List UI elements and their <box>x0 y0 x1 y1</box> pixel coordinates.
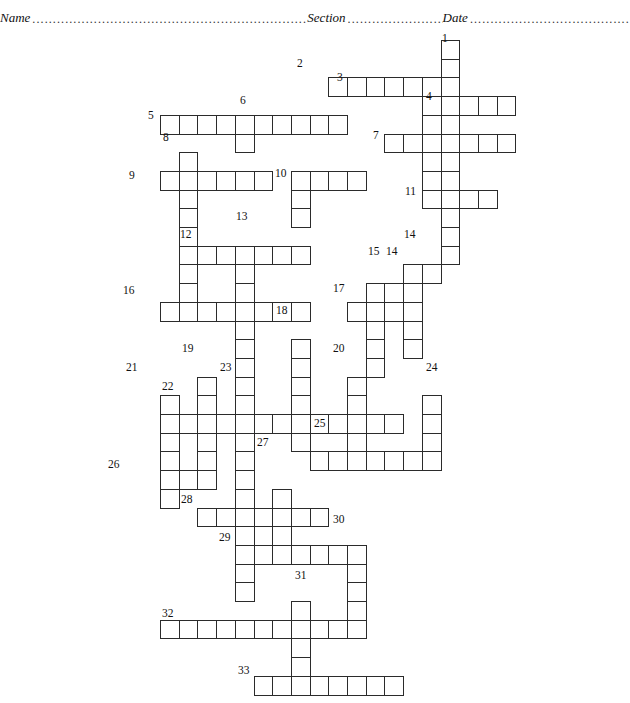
crossword-cell[interactable] <box>347 171 367 191</box>
crossword-cell[interactable] <box>216 414 236 434</box>
crossword-cell[interactable] <box>497 134 517 154</box>
crossword-cell[interactable] <box>291 414 311 434</box>
crossword-cell[interactable] <box>291 208 311 228</box>
crossword-cell[interactable] <box>235 264 255 284</box>
crossword-cell[interactable] <box>459 96 479 116</box>
crossword-cell[interactable] <box>197 451 217 471</box>
crossword-cell[interactable] <box>216 620 236 640</box>
crossword-cell[interactable] <box>235 489 255 509</box>
crossword-cell[interactable] <box>328 115 348 135</box>
crossword-cell[interactable] <box>347 582 367 602</box>
crossword-cell[interactable] <box>291 115 311 135</box>
crossword-cell[interactable] <box>422 395 442 415</box>
crossword-cell[interactable] <box>254 414 274 434</box>
crossword-cell[interactable] <box>291 545 311 565</box>
crossword-cell[interactable] <box>179 246 199 266</box>
name-dotted-line[interactable]: ........................................… <box>32 12 307 26</box>
crossword-cell[interactable] <box>235 526 255 546</box>
crossword-cell[interactable] <box>254 508 274 528</box>
crossword-cell[interactable] <box>422 171 442 191</box>
crossword-cell[interactable] <box>291 657 311 677</box>
crossword-cell[interactable] <box>272 414 292 434</box>
crossword-cell[interactable] <box>235 582 255 602</box>
crossword-cell[interactable] <box>291 358 311 378</box>
crossword-cell[interactable] <box>235 115 255 135</box>
crossword-cell[interactable] <box>272 489 292 509</box>
crossword-cell[interactable] <box>272 508 292 528</box>
crossword-cell[interactable] <box>272 115 292 135</box>
crossword-cell[interactable] <box>197 115 217 135</box>
crossword-cell[interactable] <box>197 395 217 415</box>
crossword-cell[interactable] <box>310 115 330 135</box>
crossword-cell[interactable] <box>403 321 423 341</box>
crossword-cell[interactable] <box>179 283 199 303</box>
crossword-cell[interactable] <box>422 433 442 453</box>
crossword-cell[interactable] <box>328 451 348 471</box>
crossword-cell[interactable] <box>291 676 311 696</box>
crossword-cell[interactable] <box>310 545 330 565</box>
crossword-cell[interactable] <box>179 208 199 228</box>
crossword-cell[interactable] <box>216 302 236 322</box>
crossword-cell[interactable] <box>235 321 255 341</box>
crossword-cell[interactable] <box>160 620 180 640</box>
crossword-cell[interactable] <box>197 302 217 322</box>
crossword-cell[interactable] <box>235 302 255 322</box>
crossword-cell[interactable] <box>422 134 442 154</box>
crossword-cell[interactable] <box>366 321 386 341</box>
crossword-cell[interactable] <box>422 115 442 135</box>
crossword-cell[interactable] <box>179 414 199 434</box>
crossword-cell[interactable] <box>160 433 180 453</box>
crossword-cell[interactable] <box>441 152 461 172</box>
crossword-cell[interactable] <box>384 302 404 322</box>
crossword-cell[interactable] <box>384 134 404 154</box>
crossword-cell[interactable] <box>179 171 199 191</box>
crossword-cell[interactable] <box>235 283 255 303</box>
crossword-cell[interactable] <box>235 395 255 415</box>
crossword-cell[interactable] <box>235 545 255 565</box>
crossword-cell[interactable] <box>347 302 367 322</box>
crossword-cell[interactable] <box>366 676 386 696</box>
crossword-cell[interactable] <box>310 620 330 640</box>
crossword-cell[interactable] <box>328 676 348 696</box>
crossword-cell[interactable] <box>235 377 255 397</box>
crossword-cell[interactable] <box>291 171 311 191</box>
crossword-cell[interactable] <box>403 339 423 359</box>
crossword-cell[interactable] <box>272 676 292 696</box>
crossword-cell[interactable] <box>291 190 311 210</box>
crossword-cell[interactable] <box>179 470 199 490</box>
crossword-cell[interactable] <box>403 77 423 97</box>
crossword-cell[interactable] <box>403 283 423 303</box>
crossword-cell[interactable] <box>291 433 311 453</box>
crossword-cell[interactable] <box>366 77 386 97</box>
crossword-cell[interactable] <box>235 339 255 359</box>
crossword-cell[interactable] <box>347 433 367 453</box>
crossword-cell[interactable] <box>441 190 461 210</box>
crossword-cell[interactable] <box>216 246 236 266</box>
crossword-cell[interactable] <box>235 246 255 266</box>
crossword-cell[interactable] <box>366 451 386 471</box>
crossword-cell[interactable] <box>179 620 199 640</box>
crossword-cell[interactable] <box>384 676 404 696</box>
crossword-cell[interactable] <box>235 620 255 640</box>
crossword-cell[interactable] <box>160 302 180 322</box>
crossword-cell[interactable] <box>347 545 367 565</box>
crossword-cell[interactable] <box>197 508 217 528</box>
crossword-cell[interactable] <box>384 414 404 434</box>
crossword-cell[interactable] <box>459 134 479 154</box>
crossword-cell[interactable] <box>403 264 423 284</box>
crossword-cell[interactable] <box>235 508 255 528</box>
crossword-cell[interactable] <box>347 414 367 434</box>
crossword-cell[interactable] <box>441 246 461 266</box>
crossword-cell[interactable] <box>497 96 517 116</box>
crossword-cell[interactable] <box>366 414 386 434</box>
crossword-cell[interactable] <box>403 134 423 154</box>
crossword-cell[interactable] <box>197 414 217 434</box>
crossword-cell[interactable] <box>291 302 311 322</box>
crossword-cell[interactable] <box>160 489 180 509</box>
crossword-cell[interactable] <box>197 470 217 490</box>
crossword-cell[interactable] <box>328 545 348 565</box>
crossword-cell[interactable] <box>384 283 404 303</box>
crossword-cell[interactable] <box>272 620 292 640</box>
crossword-cell[interactable] <box>328 414 348 434</box>
crossword-cell[interactable] <box>310 171 330 191</box>
